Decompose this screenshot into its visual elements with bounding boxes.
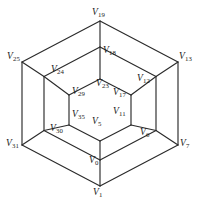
vertex-label-V25: V25: [7, 52, 19, 62]
vertex-label-V0: V0: [89, 156, 98, 166]
vertex-label-subscript: 11: [119, 110, 125, 117]
vertex-label-V29: V29: [72, 87, 84, 97]
graph-edge-V25-V19: [22, 21, 100, 62]
vertex-label-subscript: 0: [95, 159, 98, 166]
vertex-label-V24: V24: [51, 65, 63, 75]
vertex-label-prefix: V: [72, 109, 78, 119]
vertex-label-subscript: 35: [78, 113, 85, 120]
graph-edge-V24-V29: [44, 77, 69, 96]
vertex-label-prefix: V: [89, 155, 95, 165]
vertex-label-prefix: V: [7, 51, 13, 61]
vertex-label-V19: V19: [92, 8, 104, 18]
vertex-label-prefix: V: [50, 123, 56, 133]
vertex-label-prefix: V: [103, 45, 109, 55]
graph-edge-V7-V6: [156, 131, 178, 146]
vertex-label-V23: V23: [96, 79, 108, 89]
vertex-label-V31: V31: [6, 139, 18, 149]
vertex-label-prefix: V: [140, 127, 146, 137]
vertex-label-V17: V17: [113, 88, 125, 98]
graph-edge-V13-V12: [156, 62, 178, 77]
vertex-label-V30: V30: [50, 124, 62, 134]
vertex-label-prefix: V: [180, 138, 186, 148]
vertex-label-V35: V35: [72, 110, 84, 120]
vertex-label-subscript: 23: [102, 82, 109, 89]
vertex-label-subscript: 31: [12, 142, 19, 149]
vertex-label-prefix: V: [137, 73, 143, 83]
vertex-label-subscript: 17: [119, 91, 126, 98]
vertex-label-subscript: 19: [98, 11, 105, 18]
vertex-label-subscript: 18: [109, 49, 116, 56]
edges-group: [22, 21, 178, 186]
vertex-label-subscript: 5: [98, 120, 101, 127]
vertex-label-V18: V18: [103, 46, 115, 56]
vertex-label-subscript: 24: [57, 68, 64, 75]
vertex-label-prefix: V: [113, 87, 119, 97]
vertex-label-V1: V1: [93, 188, 102, 198]
vertex-label-V5: V5: [92, 117, 101, 127]
vertex-label-prefix: V: [179, 51, 185, 61]
vertex-label-V7: V7: [180, 139, 189, 149]
graph-edge-V5-V35: [69, 125, 100, 141]
vertex-label-prefix: V: [96, 78, 102, 88]
vertex-label-subscript: 30: [56, 127, 63, 134]
vertex-label-V12: V12: [137, 74, 149, 84]
vertex-label-V6: V6: [140, 128, 149, 138]
graph-edge-V1-V31: [22, 145, 100, 186]
vertex-label-prefix: V: [92, 7, 98, 17]
vertex-label-prefix: V: [72, 86, 78, 96]
vertex-label-prefix: V: [93, 187, 99, 197]
vertex-label-V11: V11: [113, 107, 125, 117]
vertex-label-subscript: 7: [186, 142, 189, 149]
graph-edge-V25-V24: [22, 62, 44, 77]
vertex-label-prefix: V: [113, 106, 119, 116]
vertex-label-subscript: 12: [143, 77, 150, 84]
vertex-label-subscript: 25: [13, 55, 20, 62]
graph-edges-svg: [0, 0, 200, 207]
graph-edge-V11-V5: [100, 125, 131, 141]
graph-edge-V31-V30: [22, 131, 44, 146]
vertex-label-subscript: 13: [185, 55, 192, 62]
vertex-label-prefix: V: [51, 64, 57, 74]
graph-edge-V7-V1: [100, 145, 178, 186]
vertex-label-subscript: 29: [78, 90, 85, 97]
vertex-label-subscript: 1: [99, 191, 102, 198]
vertex-label-subscript: 6: [146, 131, 149, 138]
hexagonal-graph-figure: V19V18V25V13V24V12V23V29V17V35V11V5V30V6…: [0, 0, 200, 207]
vertex-label-V13: V13: [179, 52, 191, 62]
vertex-label-prefix: V: [6, 138, 12, 148]
vertex-label-prefix: V: [92, 116, 98, 126]
